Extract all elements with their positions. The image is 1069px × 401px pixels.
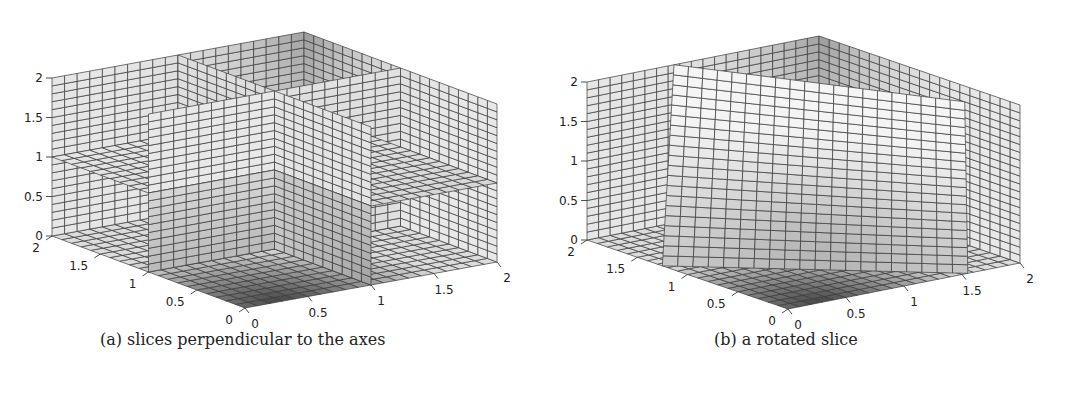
- x-tick-label: 0.5: [308, 306, 327, 320]
- z-tick-label: 2: [35, 71, 43, 85]
- x-tick-label: 2: [1026, 272, 1034, 286]
- y-tick-label: 0.5: [166, 295, 185, 309]
- y-tick-label: 0.5: [707, 297, 726, 311]
- y-tick-label: 1.5: [69, 259, 88, 273]
- y-tick-label: 2: [32, 241, 40, 255]
- z-tick-label: 0.5: [559, 194, 578, 208]
- z-tick-label: 2: [570, 75, 578, 89]
- y-tick-label: 0: [768, 314, 776, 328]
- z-tick-label: 1: [35, 150, 43, 164]
- x-tick-label: 1.5: [962, 284, 981, 298]
- y-tick-label: 1.5: [606, 262, 625, 276]
- x-tick-label: 1: [377, 294, 385, 308]
- x-tick-label: 0.5: [846, 307, 865, 321]
- caption-panel-b: (b) a rotated slice: [714, 330, 858, 349]
- x-tick-label: 0: [251, 317, 259, 331]
- y-tick-label: 1: [668, 280, 676, 294]
- z-tick-label: 1.5: [24, 111, 43, 125]
- panel-b-plot: 00.511.5200.511.5200.511.52: [559, 36, 1034, 332]
- z-tick-label: 0.5: [24, 190, 43, 204]
- y-tick-label: 2: [567, 245, 575, 259]
- y-tick-label: 0: [225, 313, 233, 327]
- z-tick-label: 1: [570, 154, 578, 168]
- x-tick-label: 1: [910, 295, 918, 309]
- panel-a-plot: 00.511.5200.511.5200.511.52: [24, 32, 511, 331]
- y-tick-label: 1: [129, 277, 137, 291]
- z-tick-label: 1.5: [559, 115, 578, 129]
- caption-panel-a: (a) slices perpendicular to the axes: [100, 330, 385, 349]
- x-tick-label: 2: [503, 271, 511, 285]
- x-tick-label: 1.5: [434, 283, 453, 297]
